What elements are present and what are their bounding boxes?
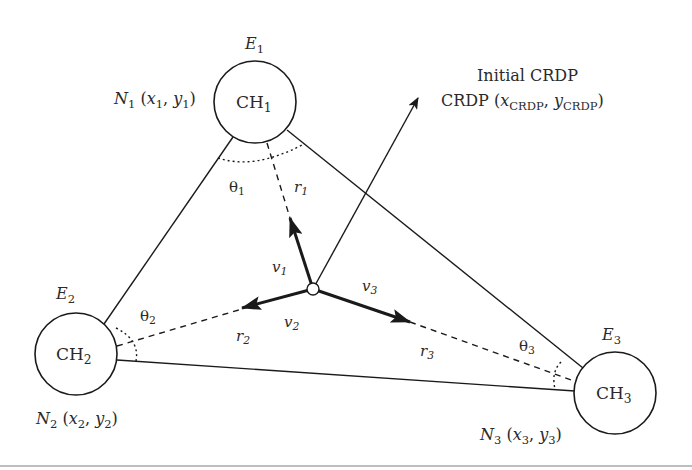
energy-e2-sub: 2 — [68, 292, 75, 306]
pos-n1-close: ) — [190, 89, 196, 108]
vector-v2-arrow — [242, 289, 313, 308]
theta2-sub: 2 — [149, 314, 156, 327]
energy-e2-label: E2 — [56, 286, 75, 305]
pos-n3-open: ( — [501, 425, 512, 444]
position-n1-label: N1 (x1, y1) — [114, 91, 196, 110]
bottom-rule — [0, 465, 692, 467]
distance-r3-label: r3 — [420, 344, 434, 362]
pos-n3-y: y — [539, 425, 548, 444]
edge-ch1-ch2 — [104, 137, 233, 324]
node-ch3-base: CH — [596, 383, 624, 403]
pos-n1-comma: , — [163, 89, 173, 108]
vector-v2-label: v2 — [284, 315, 299, 333]
energy-e1-base: E — [245, 34, 257, 53]
pos-n2-ysub: 2 — [104, 417, 111, 431]
node-ch3-sub: 3 — [624, 392, 632, 406]
r3-sub: 3 — [427, 349, 434, 362]
crdp-y: y — [554, 91, 563, 110]
crdp-x: x — [500, 91, 509, 110]
theta1-base: θ — [229, 178, 238, 196]
energy-e2-base: E — [56, 284, 68, 303]
theta3-sub: 3 — [528, 344, 535, 357]
pos-n2-comma: , — [85, 409, 95, 428]
theta1-sub: 1 — [238, 185, 245, 198]
pos-n2-y: y — [95, 409, 104, 428]
node-ch2-base: CH — [56, 344, 84, 364]
r2-sub: 2 — [243, 334, 250, 347]
v2-sub: 2 — [292, 320, 299, 333]
pos-n1-x: x — [147, 89, 156, 108]
crdp-ysub: CRDP — [563, 99, 597, 113]
pos-n2-close: ) — [112, 409, 118, 428]
pos-n2-N: N — [36, 409, 50, 428]
crdp-suffix: ) — [597, 91, 603, 110]
vector-v1-label: v1 — [272, 260, 287, 278]
crdp-sep: , — [544, 91, 554, 110]
angle-theta1-label: θ1 — [229, 180, 245, 198]
crdp-point — [307, 283, 319, 295]
node-ch1-base: CH — [236, 92, 264, 112]
vector-v3-label: v3 — [362, 279, 377, 297]
distance-r2-label: r2 — [236, 329, 250, 347]
pos-n3-close: ) — [556, 425, 562, 444]
crdp-triangle-diagram — [0, 0, 692, 470]
crdp-direction-arrow — [313, 98, 418, 289]
angle-theta2-label: θ2 — [140, 309, 156, 327]
energy-e3-base: E — [602, 325, 614, 344]
pos-n3-x: x — [513, 425, 522, 444]
node-ch2-label: CH2 — [56, 346, 92, 366]
pos-n1-xsub: 1 — [156, 97, 163, 111]
vector-v1-arrow — [290, 218, 313, 289]
energy-e1-sub: 1 — [257, 42, 264, 56]
pos-n3-xsub: 3 — [522, 433, 529, 447]
distance-line-r2 — [117, 309, 242, 346]
v3-sub: 3 — [370, 284, 377, 297]
node-ch3-label: CH3 — [596, 385, 632, 405]
angle-theta3-label: θ3 — [519, 339, 535, 357]
edge-ch2-ch3 — [117, 360, 575, 391]
pos-n1-ysub: 1 — [182, 97, 189, 111]
distance-line-r1 — [267, 143, 290, 218]
pos-n3-ysub: 3 — [548, 433, 555, 447]
v1-sub: 1 — [280, 265, 287, 278]
position-n2-label: N2 (x2, y2) — [36, 411, 118, 430]
theta3-base: θ — [519, 337, 528, 355]
distance-r1-label: r1 — [294, 180, 308, 198]
theta2-base: θ — [140, 307, 149, 325]
pos-n1-y: y — [173, 89, 182, 108]
pos-n3-N: N — [480, 425, 494, 444]
r1-sub: 1 — [301, 185, 308, 198]
pos-n1-N: N — [114, 89, 128, 108]
energy-e1-label: E1 — [245, 36, 264, 55]
crdp-prefix: CRDP ( — [441, 91, 500, 110]
pos-n1-open: ( — [135, 89, 146, 108]
angle-arc-theta1 — [218, 145, 302, 162]
node-ch1-label: CH1 — [236, 94, 272, 114]
node-ch1-sub: 1 — [264, 101, 272, 115]
pos-n3-comma: , — [529, 425, 539, 444]
distance-line-r3 — [410, 322, 574, 381]
position-n3-label: N3 (x3, y3) — [480, 427, 562, 446]
angle-arc-theta2 — [116, 328, 137, 361]
pos-n2-xsub: 2 — [78, 417, 85, 431]
crdp-xsub: CRDP — [509, 99, 543, 113]
pos-n2-x: x — [69, 409, 78, 428]
energy-e3-sub: 3 — [614, 333, 621, 347]
crdp-title-label: Initial CRDP — [477, 68, 578, 84]
pos-n2-open: ( — [57, 409, 68, 428]
edge-ch1-ch3 — [287, 130, 583, 368]
energy-e3-label: E3 — [602, 327, 621, 346]
node-ch2-sub: 2 — [84, 353, 92, 367]
crdp-coord-label: CRDP (xCRDP, yCRDP) — [441, 93, 604, 112]
